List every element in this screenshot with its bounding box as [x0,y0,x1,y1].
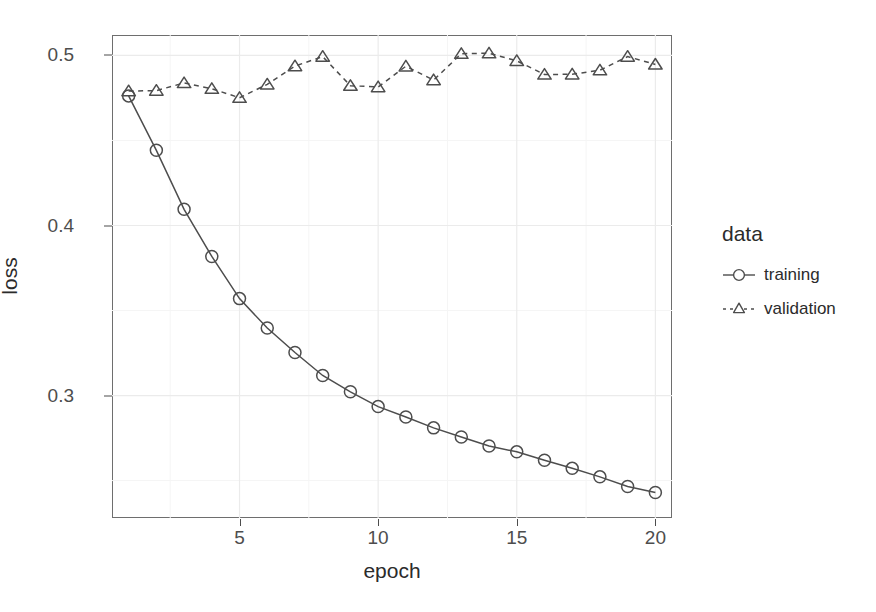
legend-item-validation[interactable]: validation [722,294,872,324]
x-tick-mark [655,519,656,526]
legend-label-training: training [764,265,820,285]
y-axis: 0.30.40.5 [0,0,96,612]
circle-icon [722,262,756,288]
legend-item-training[interactable]: training [722,260,872,290]
x-tick-label: 10 [368,527,389,549]
y-tick-label: 0.5 [48,44,74,66]
x-tick-mark [378,519,379,526]
y-tick-mark [104,225,112,226]
x-tick-label: 20 [645,527,666,549]
triangle-icon [722,296,756,322]
y-tick-mark [104,395,112,396]
x-tick-mark [517,519,518,526]
y-tick-mark [104,55,112,56]
y-tick-label: 0.3 [48,385,74,407]
plot-panel [112,35,672,518]
x-tick-mark [240,519,241,526]
y-tick-label: 0.4 [48,215,74,237]
x-axis-title: epoch [363,559,420,583]
data-layer [112,35,672,518]
legend-label-validation: validation [764,299,836,319]
legend: data training validation [722,222,872,328]
x-tick-label: 5 [234,527,245,549]
x-tick-label: 15 [506,527,527,549]
loss-vs-epoch-chart: loss 0.30.40.5 5101520 epoch data traini… [0,0,876,612]
legend-title: data [722,222,872,246]
